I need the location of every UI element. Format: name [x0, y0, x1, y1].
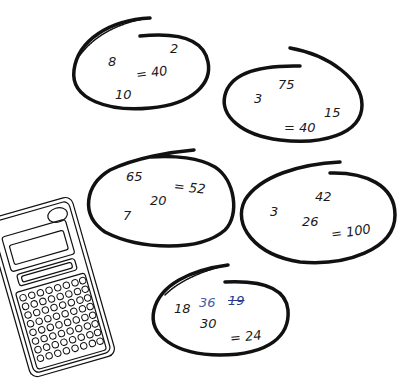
puzzle-2-number-2: 3 [254, 92, 262, 105]
puzzle-5-target: = 24 [229, 328, 262, 344]
puzzle-4-number-1: 3 [270, 205, 278, 218]
puzzle-3-number-3: 7 [123, 209, 131, 222]
puzzle-ellipse-4 [241, 162, 395, 263]
puzzle-4-number-3: 26 [302, 215, 319, 228]
puzzle-5-number-1: 18 [174, 302, 191, 315]
puzzle-4-number-2: 42 [315, 190, 332, 203]
puzzle-1-number-1: 8 [108, 55, 116, 68]
puzzle-3-target: = 52 [173, 179, 206, 195]
puzzle-3-number-1: 65 [126, 170, 143, 183]
puzzle-5-handwritten-2: 19 [228, 294, 245, 307]
puzzle-5-number-2: 30 [200, 317, 217, 330]
puzzle-5-handwritten-1: 36 [199, 296, 216, 309]
puzzle-2-target: = 40 [284, 121, 316, 134]
calculator-icon [0, 196, 116, 379]
puzzle-2-number-3: 15 [324, 106, 341, 119]
puzzle-1-number-3: 10 [115, 88, 132, 101]
puzzle-1-number-2: 2 [170, 42, 178, 55]
puzzle-3-number-2: 20 [150, 194, 167, 207]
puzzle-ellipse-1 [74, 18, 209, 109]
puzzle-2-number-1: 75 [278, 78, 295, 91]
